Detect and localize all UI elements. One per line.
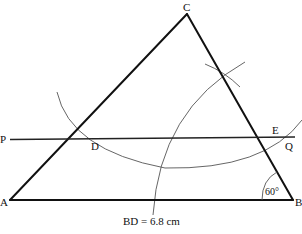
side-ac: [10, 14, 187, 200]
label-b: B: [295, 196, 302, 208]
large-arc-centered-b: [57, 92, 302, 168]
angle-label: 60°: [265, 186, 279, 197]
label-d: D: [91, 140, 99, 152]
label-e: E: [272, 124, 279, 136]
label-q: Q: [285, 140, 293, 152]
label-p: P: [0, 133, 6, 145]
line-pq: [10, 137, 295, 140]
label-a: A: [0, 196, 8, 208]
geometry-diagram: C A B P D E Q 60° BD = 6.8 cm: [0, 0, 302, 234]
measurement-label: BD = 6.8 cm: [123, 215, 180, 227]
label-c: C: [183, 1, 190, 13]
side-cb: [187, 14, 293, 200]
